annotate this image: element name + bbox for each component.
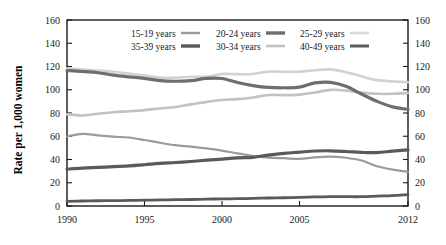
line-chart: Rate per 1,000 women 0204060801001201401… <box>0 0 446 245</box>
x-tick-label: 2012 <box>398 214 418 225</box>
legend-label: 40-49 years <box>300 42 345 52</box>
series-line-30-34-years <box>67 90 408 116</box>
y-tick-label-left: 100 <box>45 84 60 95</box>
y-tick-label-right: 60 <box>415 131 425 142</box>
y-tick-label-left: 160 <box>45 15 60 26</box>
y-tick-label-right: 140 <box>415 38 430 49</box>
x-tick-label: 2005 <box>290 214 310 225</box>
y-tick-label-left: 60 <box>50 131 60 142</box>
legend-label: 30-34 years <box>216 42 261 52</box>
legend-label: 20-24 years <box>216 29 261 39</box>
x-tick-label: 2000 <box>212 214 232 225</box>
series-lines <box>67 69 408 202</box>
y-tick-label-left: 0 <box>55 201 60 212</box>
x-tick-label: 1995 <box>135 214 155 225</box>
y-axis-right-ticks: 020406080100120140160 <box>403 15 430 212</box>
y-axis-left-ticks: 020406080100120140160 <box>45 15 72 212</box>
y-tick-label-left: 80 <box>50 108 60 119</box>
chart-legend: 15-19 years20-24 years25-29 years35-39 y… <box>131 29 369 52</box>
y-tick-label-right: 120 <box>415 61 430 72</box>
chart-figure: Rate per 1,000 women 0204060801001201401… <box>0 0 446 245</box>
y-tick-label-right: 20 <box>415 177 425 188</box>
series-line-40-49-years <box>67 195 408 202</box>
y-tick-label-left: 140 <box>45 38 60 49</box>
y-axis-title: Rate per 1,000 women <box>12 65 25 175</box>
legend-label: 35-39 years <box>131 42 176 52</box>
y-tick-label-right: 40 <box>415 154 425 165</box>
y-tick-label-right: 0 <box>415 201 420 212</box>
y-tick-label-left: 20 <box>50 177 60 188</box>
x-axis-ticks: 19901995200020052012 <box>57 201 418 225</box>
y-axis-title-label: Rate per 1,000 women <box>12 65 25 175</box>
y-tick-label-right: 160 <box>415 15 430 26</box>
y-tick-label-left: 40 <box>50 154 60 165</box>
x-tick-label: 1990 <box>57 214 77 225</box>
legend-label: 15-19 years <box>131 29 176 39</box>
y-tick-label-left: 120 <box>45 61 60 72</box>
y-tick-label-right: 100 <box>415 84 430 95</box>
y-tick-label-right: 80 <box>415 108 425 119</box>
legend-label: 25-29 years <box>300 29 345 39</box>
